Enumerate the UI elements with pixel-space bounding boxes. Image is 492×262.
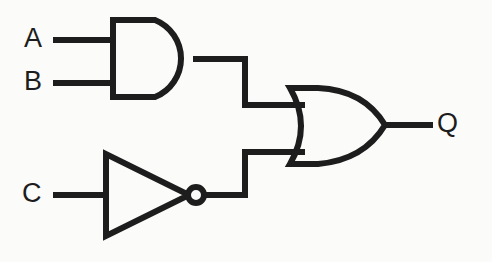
not-gate-triangle <box>106 154 189 236</box>
input-label-a: A <box>24 25 43 52</box>
output-label-q: Q <box>437 110 459 137</box>
wire-and-output-to-or <box>196 59 302 105</box>
input-label-c: C <box>22 180 42 207</box>
logic-circuit-schematic <box>0 0 492 262</box>
input-label-b: B <box>24 68 43 95</box>
wire-not-output-to-or <box>204 152 302 195</box>
and-gate-body <box>113 20 181 97</box>
circuit-diagram-canvas: A B C Q <box>0 0 492 262</box>
